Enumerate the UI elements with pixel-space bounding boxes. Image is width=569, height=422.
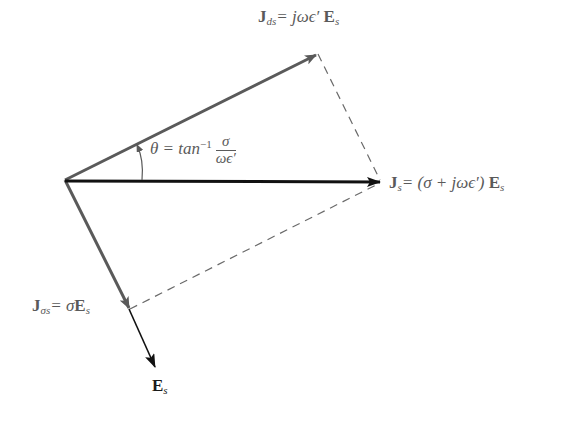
theta-label: θ = tan−1σωϵ′ xyxy=(150,134,236,167)
jsigma-subscript: σs xyxy=(41,304,51,316)
es-symbol: E xyxy=(152,376,163,395)
theta-lhs: θ = tan xyxy=(150,139,200,158)
es-label: Es xyxy=(152,377,168,396)
dashed-line-jsigma-to-js xyxy=(130,184,378,309)
jds-label: Jds= jωϵ′ Es xyxy=(258,8,339,27)
jsigma-field: E xyxy=(74,296,85,315)
jsigma-rhs: = σ xyxy=(50,296,74,315)
theta-angle-arc xyxy=(137,145,142,180)
theta-exponent: −1 xyxy=(200,138,212,150)
jds-field-subscript: s xyxy=(335,15,339,27)
jsigma-field-subscript: s xyxy=(86,304,90,316)
js-field: E xyxy=(489,173,500,192)
js-field-subscript: s xyxy=(500,181,504,193)
es-subscript: s xyxy=(163,384,167,396)
jds-rhs: = jωϵ′ xyxy=(276,7,323,26)
jsigma-symbol: J xyxy=(32,296,41,315)
jsigma-label: Jσs= σEs xyxy=(32,297,90,316)
jds-symbol: J xyxy=(258,7,267,26)
es-vector-arrow xyxy=(129,309,155,367)
dashed-line-jds-to-js xyxy=(318,54,380,180)
theta-denominator: ωϵ′ xyxy=(216,151,236,167)
js-rhs: = (σ + jωϵ′) xyxy=(402,173,489,192)
phasor-diagram xyxy=(0,0,569,422)
js-label: Js= (σ + jωϵ′) Es xyxy=(389,174,504,193)
js-vector-arrow xyxy=(65,181,380,182)
jds-field: E xyxy=(324,7,335,26)
jsigma-vector-arrow xyxy=(65,180,129,308)
theta-numerator: σ xyxy=(216,134,236,151)
jds-subscript: ds xyxy=(267,15,277,27)
js-symbol: J xyxy=(389,173,398,192)
theta-fraction: σωϵ′ xyxy=(216,134,236,167)
